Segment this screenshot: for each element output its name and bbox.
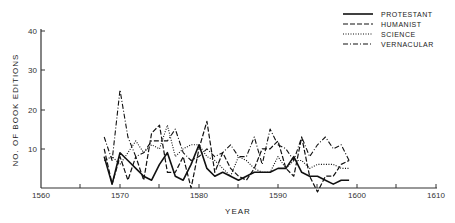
legend-label-humanist: HUMANIST	[381, 21, 422, 28]
series-line-science	[104, 125, 349, 176]
y-tick-label: 30	[28, 66, 37, 75]
x-tick-label: 1580	[190, 191, 208, 200]
x-tick-label: 1590	[269, 191, 287, 200]
series-line-humanist	[104, 121, 349, 192]
x-ticks: 1560 1570 1580 1590 1600 1610	[32, 184, 445, 200]
x-tick-label: 1570	[111, 191, 129, 200]
legend-label-protestant: PROTESTANT	[381, 11, 433, 18]
y-ticks: 10 20 30 40	[28, 27, 45, 154]
legend-label-vernacular: VERNACULAR	[381, 41, 434, 48]
line-chart: 10 20 30 40 1560 1570 1580 1590 1600 161…	[0, 0, 455, 223]
x-tick-label: 1600	[348, 191, 366, 200]
x-tick-label: 1610	[427, 191, 445, 200]
series-lines	[104, 90, 349, 192]
x-tick-label: 1560	[32, 191, 50, 200]
y-tick-label: 10	[28, 145, 37, 154]
y-tick-label: 40	[28, 27, 37, 36]
legend: PROTESTANT HUMANIST SCIENCE VERNACULAR	[343, 11, 434, 48]
series-line-protestant	[104, 145, 349, 184]
x-axis-title: YEAR	[225, 207, 251, 216]
y-tick-label: 20	[28, 106, 37, 115]
series-line-vernacular	[104, 90, 349, 164]
y-axis-title: NO. OF BOOK EDITIONS	[11, 54, 20, 167]
legend-label-science: SCIENCE	[381, 31, 416, 38]
